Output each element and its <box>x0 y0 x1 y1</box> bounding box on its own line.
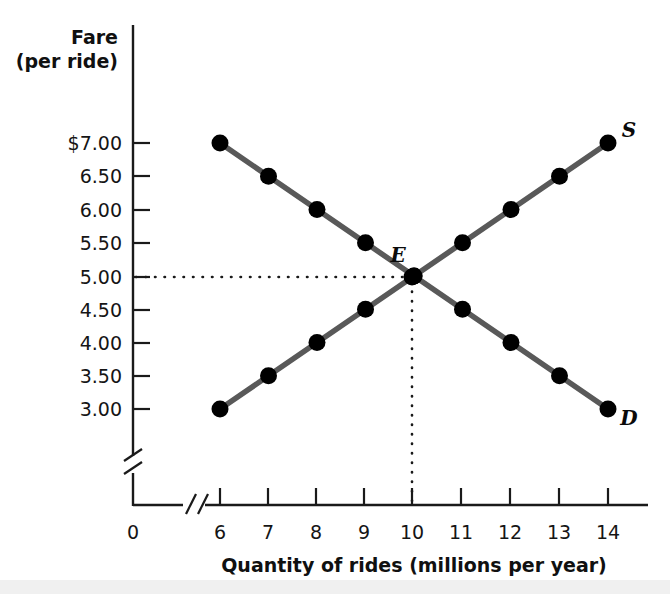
y-tick-label-6-50: 6.50 <box>80 165 122 187</box>
y-tick-label-4-50: 4.50 <box>80 299 122 321</box>
page-bottom-band <box>0 580 670 594</box>
supply-point-6[interactable] <box>212 401 229 418</box>
y-tick-label-4-00: 4.00 <box>80 332 122 354</box>
x-tick-label-14: 14 <box>596 521 620 543</box>
x-tick-label-9: 9 <box>358 521 370 543</box>
x-tick-label-11: 11 <box>449 521 473 543</box>
supply-demand-chart: Fare (per ride) $7.00 6.50 6.00 <box>0 0 670 594</box>
chart-page: Fare (per ride) $7.00 6.50 6.00 <box>0 0 670 594</box>
demand-point-7[interactable] <box>260 168 277 185</box>
y-tick-label-7-00: $7.00 <box>68 132 122 154</box>
x-tick-label-10: 10 <box>400 521 424 543</box>
y-tick-label-6-00: 6.00 <box>80 199 122 221</box>
y-tick-label-3-50: 3.50 <box>80 365 122 387</box>
x-tick-label-7: 7 <box>262 521 274 543</box>
x-tick-label-12: 12 <box>498 521 522 543</box>
demand-point-13[interactable] <box>551 367 568 384</box>
y-axis-ticks: $7.00 6.50 6.00 5.50 5.00 4.50 4.00 3.50… <box>68 132 150 420</box>
x-tick-label-13: 13 <box>547 521 571 543</box>
supply-point-11[interactable] <box>454 234 471 251</box>
x-tick-label-8: 8 <box>310 521 322 543</box>
x-tick-label-6: 6 <box>214 521 226 543</box>
demand-point-9[interactable] <box>357 234 374 251</box>
supply-point-7[interactable] <box>260 367 277 384</box>
supply-point-14[interactable] <box>600 135 617 152</box>
x-axis-break-mark <box>186 494 208 514</box>
x-axis-title: Quantity of rides (millions per year) <box>221 554 607 576</box>
supply-curve-label: S <box>622 118 636 142</box>
demand-curve-label: D <box>619 406 638 430</box>
y-tick-label-5-00: 5.00 <box>80 266 122 288</box>
demand-point-12[interactable] <box>503 334 520 351</box>
supply-point-12[interactable] <box>503 201 520 218</box>
y-axis-title-line2: (per ride) <box>16 50 118 72</box>
y-tick-label-3-00: 3.00 <box>80 398 122 420</box>
y-axis-title-line1: Fare <box>71 26 118 48</box>
y-tick-label-5-50: 5.50 <box>80 232 122 254</box>
origin-label: 0 <box>127 521 139 543</box>
equilibrium-point[interactable] <box>404 269 421 286</box>
x-axis-ticks: 6 7 8 9 10 11 12 13 14 <box>214 488 620 543</box>
demand-point-6[interactable] <box>212 135 229 152</box>
demand-point-8[interactable] <box>309 201 326 218</box>
demand-point-14[interactable] <box>600 401 617 418</box>
demand-point-11[interactable] <box>454 301 471 318</box>
equilibrium-label: E <box>389 243 406 267</box>
supply-point-9[interactable] <box>357 301 374 318</box>
supply-point-13[interactable] <box>551 168 568 185</box>
supply-point-8[interactable] <box>309 334 326 351</box>
